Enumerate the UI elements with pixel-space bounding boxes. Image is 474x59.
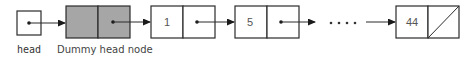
ellipsis	[330, 22, 357, 25]
dummy-label: Dummy head node	[57, 44, 153, 55]
head-label: head	[17, 44, 41, 55]
node-1-value: 1	[164, 16, 170, 28]
node-3-value: 44	[406, 16, 418, 28]
linked-list-diagram: head Dummy head node 1 5 44	[0, 0, 474, 59]
node-2-value: 5	[247, 16, 253, 28]
dummy-node-data-cell	[66, 6, 98, 38]
